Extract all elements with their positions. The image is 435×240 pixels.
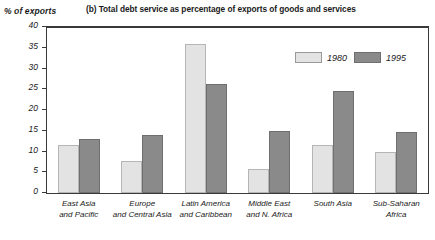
y-axis: 0510152025303540 [0,26,46,194]
bar-group [121,27,163,193]
bar-1980-5 [312,145,333,193]
bar-1995-2 [142,135,163,193]
bar-1980-4 [248,169,269,193]
y-axis-tick-label: 0 [33,186,38,197]
y-axis-tick-label: 15 [29,124,38,135]
legend-item-1995: 1995 [354,52,406,63]
bar-1995-6 [396,132,417,193]
bar-group [58,27,100,193]
y-axis-tick-label: 20 [29,103,38,114]
y-axis-tick-label: 30 [29,62,38,73]
legend-item-1980: 1980 [295,52,347,63]
legend-label-1980: 1980 [327,53,347,63]
legend-swatch-1980 [295,52,322,63]
bar-1980-1 [58,145,79,193]
bar-group [248,27,290,193]
bar-1995-5 [333,91,354,193]
bar-group [185,27,227,193]
y-axis-tick-label: 5 [33,165,38,176]
y-axis-tick-label: 40 [29,20,38,31]
chart-title: (b) Total debt service as percentage of … [86,4,386,14]
x-axis-label-6: Sub-Saharan Africa [359,199,435,220]
bar-1995-4 [269,131,290,193]
y-axis-unit-label: % of exports [4,6,56,16]
x-axis-category-labels: East Asia and PacificEurope and Central … [47,199,428,233]
bar-1995-3 [206,84,227,193]
y-axis-tick-label: 35 [29,41,38,52]
y-axis-tick-label: 10 [29,145,38,156]
legend-label-1995: 1995 [386,53,406,63]
bar-1995-1 [79,139,100,193]
bar-1980-6 [375,152,396,194]
legend-swatch-1995 [354,52,381,63]
bar-1980-3 [185,44,206,193]
bar-1980-2 [121,161,142,193]
chart-legend: 1980 1995 [295,52,406,63]
y-axis-tick-label: 25 [29,82,38,93]
